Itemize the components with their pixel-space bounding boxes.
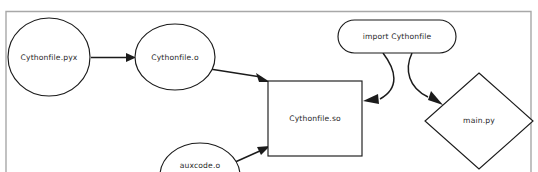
node-cythonfile-so[interactable]: Cythonfile.so [268,81,362,156]
node-label-auxcode-o: auxcode.o [180,161,221,170]
node-label-cythonfile-o: Cythonfile.o [151,53,199,62]
node-label-cythonfile-so: Cythonfile.so [289,114,341,123]
edge-pyx-to-o [91,53,136,62]
node-label-main-py: main.py [463,116,495,125]
node-main-py[interactable]: main.py [425,73,533,169]
node-cythonfile-pyx[interactable]: Cythonfile.pyx [8,18,90,96]
node-label-cythonfile-pyx: Cythonfile.pyx [21,53,78,62]
node-label-import-cythonfile: import Cythonfile [363,32,432,41]
node-auxcode-o[interactable]: auxcode.o [160,143,240,172]
node-import-cythonfile[interactable]: import Cythonfile [338,20,456,53]
edge-o-to-so [210,69,270,82]
edge-import-to-main [408,53,443,105]
edge-import-to-so [363,53,394,104]
edge-auxcode-to-so [233,146,270,163]
cython-build-flowchart: Cythonfile.pyx Cythonfile.o auxcode.o Cy… [0,0,538,172]
diagram-canvas: Cythonfile.pyx Cythonfile.o auxcode.o Cy… [0,0,538,172]
node-cythonfile-o[interactable]: Cythonfile.o [135,24,215,90]
